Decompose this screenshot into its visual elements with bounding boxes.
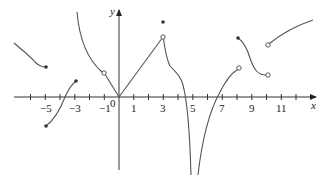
open-endpoint xyxy=(266,73,270,77)
curve-rising-right xyxy=(270,20,314,44)
x-tick-label: 9 xyxy=(249,102,255,114)
x-tick-label: 11 xyxy=(276,102,287,114)
line-from-open-to-origin xyxy=(106,75,120,97)
filled-endpoint xyxy=(74,79,78,83)
x-tick-label: −5 xyxy=(40,102,52,114)
curve-left-decreasing xyxy=(14,43,46,67)
filled-endpoint xyxy=(44,65,48,69)
x-tick-label: 5 xyxy=(190,102,196,114)
function-graph: −5 −3 −1 1 3 5 7 9 11 0 x y xyxy=(0,0,330,175)
x-tick-label: −1 xyxy=(99,102,111,114)
filled-endpoint xyxy=(236,36,240,40)
filled-endpoint xyxy=(44,124,48,128)
open-endpoint xyxy=(102,71,106,75)
open-endpoint xyxy=(266,43,270,47)
open-endpoint xyxy=(237,66,241,70)
origin-label: 0 xyxy=(110,97,116,109)
isolated-point xyxy=(161,20,165,24)
curve-decreasing-to-open xyxy=(77,12,102,72)
x-tick-label: 1 xyxy=(131,102,137,114)
y-axis-label: y xyxy=(109,5,115,17)
open-endpoint xyxy=(161,35,165,39)
x-tick-label: −3 xyxy=(69,102,81,114)
x-tick-label: 3 xyxy=(160,102,166,114)
x-axis-label: x xyxy=(310,99,316,111)
line-origin-to-open xyxy=(119,39,162,97)
curve-s-shape xyxy=(238,38,266,75)
x-tick-label: 7 xyxy=(219,102,225,114)
curve-to-vertical-asymptote-left xyxy=(164,39,192,175)
curve-from-vertical-asymptote-right xyxy=(198,70,238,176)
